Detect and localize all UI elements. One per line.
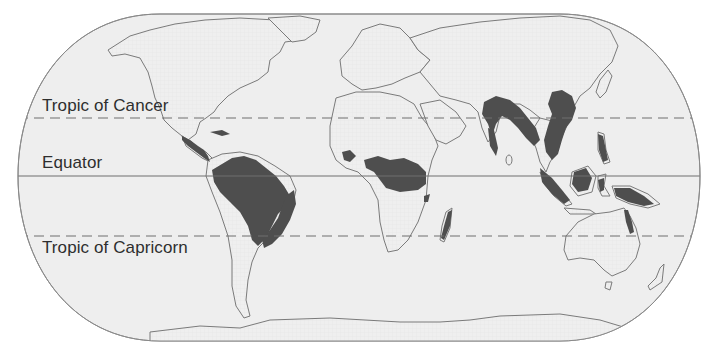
tropic-of-capricorn-label: Tropic of Capricorn <box>42 238 188 258</box>
tropic-of-cancer-label: Tropic of Cancer <box>42 96 169 116</box>
world-map-svg <box>0 0 702 358</box>
sri-lanka <box>506 155 512 165</box>
equator-label: Equator <box>42 153 102 173</box>
world-map: Tropic of Cancer Equator Tropic of Capri… <box>0 0 702 358</box>
